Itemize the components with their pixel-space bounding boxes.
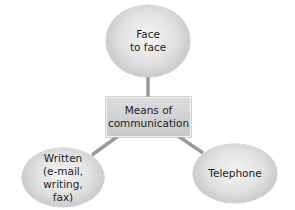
center-label: Means of communication: [108, 104, 189, 130]
node-face-to-face: Face to face: [106, 5, 190, 77]
node-telephone: Telephone: [193, 144, 277, 203]
center-node-means-of-communication: Means of communication: [106, 97, 191, 137]
connector-telephone: [178, 136, 203, 153]
node-label: Face to face: [130, 28, 166, 54]
node-label: Written (e-mail, writing, fax): [22, 152, 104, 204]
node-label: Telephone: [208, 167, 261, 180]
node-written: Written (e-mail, writing, fax): [22, 148, 104, 207]
